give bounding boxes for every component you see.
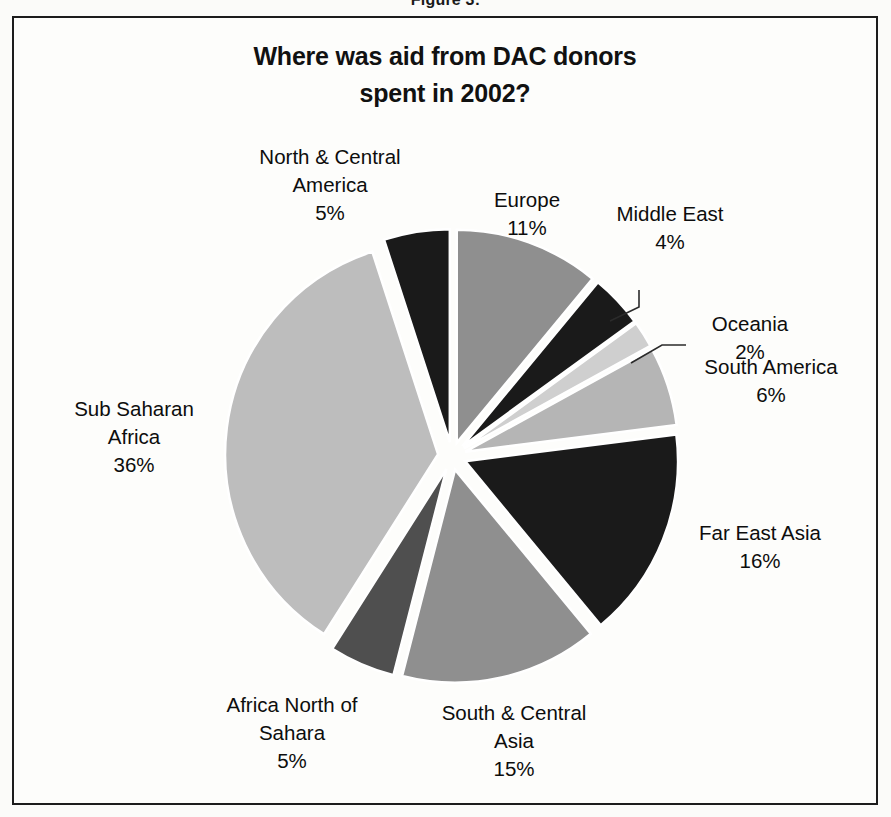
- pie-slice-group: [225, 229, 678, 682]
- chart-frame: Where was aid from DAC donors spent in 2…: [12, 16, 878, 805]
- pie-label-name: South & Central: [399, 699, 629, 727]
- pie-label-name-2: Asia: [399, 727, 629, 755]
- pie-label-middle-east: Middle East 4%: [570, 200, 770, 256]
- pie-label-name-2: Africa: [24, 423, 244, 451]
- pie-label-name: Oceania: [660, 310, 840, 338]
- pie-label-value: 15%: [399, 755, 629, 783]
- pie-label-value: 16%: [653, 547, 867, 575]
- pie-label-south-america: South America 6%: [664, 353, 878, 409]
- pie-label-name: Sub Saharan: [24, 395, 244, 423]
- pie-chart: North & Central America 5% Europe 11% Mi…: [14, 18, 880, 807]
- pie-label-value: 4%: [570, 228, 770, 256]
- pie-label-name: South America: [664, 353, 878, 381]
- pie-label-name-2: Sahara: [177, 719, 407, 747]
- pie-label-name: Middle East: [570, 200, 770, 228]
- pie-label-far-east-asia: Far East Asia 16%: [653, 519, 867, 575]
- pie-label-name: Africa North of: [177, 691, 407, 719]
- pie-label-value: 5%: [177, 747, 407, 775]
- pie-label-value: 36%: [24, 451, 244, 479]
- figure-caption: Figure 3:: [0, 0, 891, 8]
- pie-label-sub-saharan-africa: Sub Saharan Africa 36%: [24, 395, 244, 479]
- pie-label-name-2: America: [215, 171, 445, 199]
- pie-label-value: 5%: [215, 199, 445, 227]
- pie-label-africa-north-of-sahara: Africa North of Sahara 5%: [177, 691, 407, 775]
- pie-label-south-central-asia: South & Central Asia 15%: [399, 699, 629, 783]
- pie-label-north-central-america: North & Central America 5%: [215, 143, 445, 227]
- pie-label-name: North & Central: [215, 143, 445, 171]
- pie-label-name: Far East Asia: [653, 519, 867, 547]
- pie-label-value: 6%: [664, 381, 878, 409]
